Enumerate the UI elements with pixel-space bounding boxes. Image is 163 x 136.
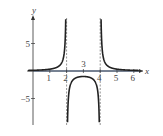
y-tick-label: −5 — [20, 94, 30, 104]
x-tick-label: 3 — [81, 59, 86, 69]
x-tick-label: 6 — [131, 73, 136, 83]
x-tick-label: 5 — [114, 73, 119, 83]
y-tick-label: 5 — [26, 39, 31, 49]
function-graph: 1234565−5 x y — [0, 0, 163, 136]
curve-branch — [101, 19, 139, 70]
x-axis-label: x — [144, 66, 149, 76]
x-tick-label: 1 — [47, 73, 52, 83]
y-axis-arrow-icon — [31, 15, 35, 20]
curve-branch — [68, 77, 100, 123]
x-tick-label: 2 — [63, 73, 68, 83]
curve-branch — [28, 19, 66, 70]
x-tick-label: 4 — [97, 73, 102, 83]
y-axis-label: y — [31, 5, 36, 15]
x-axis-arrow-icon — [139, 69, 143, 73]
